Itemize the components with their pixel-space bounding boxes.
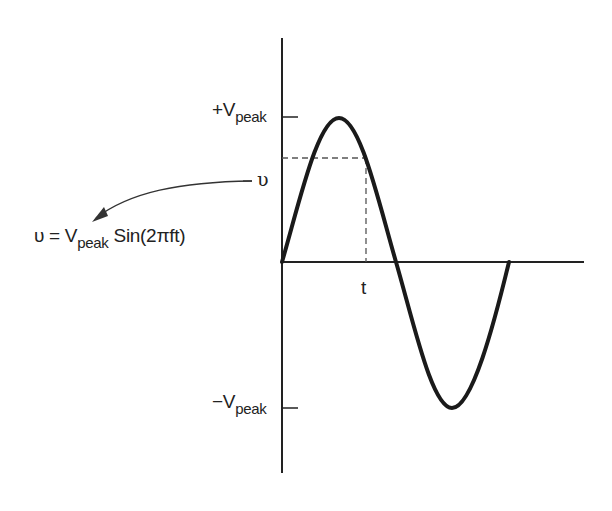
equation-lhs: υ = V [34,225,77,246]
upsilon-symbol: υ [257,168,268,190]
minus-peak-label: −Vpeak [212,392,267,416]
t-symbol: t [361,277,366,298]
upsilon-label: υ [257,170,268,189]
plus-peak-subscript: peak [235,108,266,125]
minus-peak-subscript: peak [235,400,266,417]
equation-rhs: Sin(2πft) [109,225,186,246]
sine-wave-diagram [0,0,612,511]
plus-peak-prefix: +V [212,99,235,120]
plus-peak-label: +Vpeak [212,100,267,124]
arrow-head-icon [92,207,108,222]
equation-subscript: peak [77,234,108,251]
minus-peak-prefix: −V [212,391,235,412]
equation-label: υ = Vpeak Sin(2πft) [34,226,185,250]
t-label: t [361,278,366,297]
arrow-curve [96,181,252,218]
